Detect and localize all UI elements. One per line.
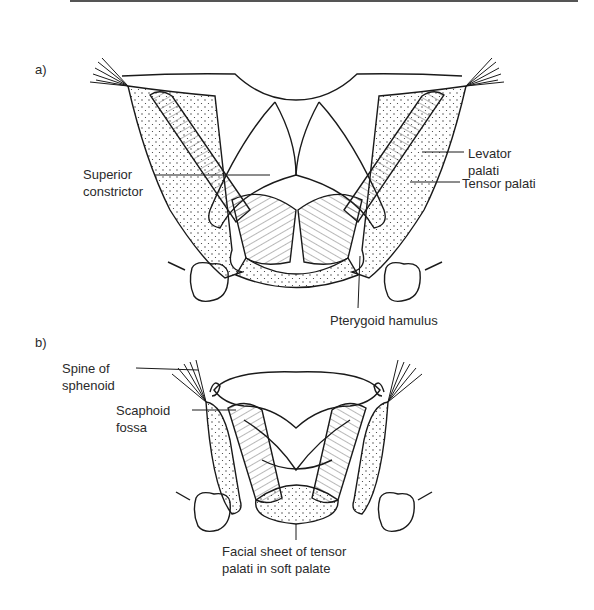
label-superior-constrictor: Superior constrictor (83, 166, 143, 200)
label-spine-of-sphenoid: Spine of sphenoid (62, 360, 115, 394)
panel-b-drawing (136, 360, 432, 540)
label-tensor-palati: Tensor palati (462, 175, 536, 192)
label-scaphoid-fossa: Scaphoid fossa (116, 402, 170, 436)
label-facial-sheet: Facial sheet of tensor palati in soft pa… (222, 543, 346, 577)
panel-b-label: b) (35, 335, 47, 350)
panel-a-label: a) (35, 62, 47, 77)
label-levator-palati: Levator palati (468, 145, 511, 179)
label-pterygoid-hamulus: Pterygoid hamulus (330, 312, 438, 329)
panel-a-drawing (90, 58, 504, 308)
anatomy-diagram (0, 0, 594, 610)
